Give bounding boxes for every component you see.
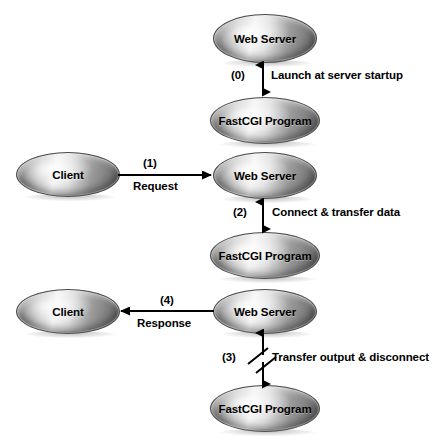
node-label: FastCGI Program bbox=[218, 403, 311, 415]
node-label: Client bbox=[52, 306, 83, 318]
node-client-1: Client bbox=[16, 152, 120, 197]
arrow-text-label-4: Response bbox=[137, 317, 191, 329]
node-web-server-2: Web Server bbox=[213, 152, 317, 199]
node-label: Web Server bbox=[234, 306, 296, 318]
node-web-server-3: Web Server bbox=[213, 289, 317, 334]
arrow-text-label-0: Launch at server startup bbox=[271, 69, 403, 81]
node-web-server-1: Web Server bbox=[213, 14, 317, 63]
arrow-text-label-1: Request bbox=[133, 180, 178, 192]
arrow-step-label-4: (4) bbox=[160, 294, 174, 306]
node-client-2: Client bbox=[16, 289, 120, 334]
arrow-step-label-2: (2) bbox=[233, 206, 247, 218]
node-label: Web Server bbox=[234, 170, 296, 182]
arrow-step-label-0: (0) bbox=[231, 69, 245, 81]
node-label: Web Server bbox=[234, 33, 296, 45]
node-label: Client bbox=[52, 169, 83, 181]
node-label: FastCGI Program bbox=[218, 115, 311, 127]
arrow-step-label-1: (1) bbox=[143, 157, 157, 169]
arrow-step-label-3: (3) bbox=[222, 351, 236, 363]
arrow-text-label-3: Transfer output & disconnect bbox=[272, 351, 429, 363]
node-fastcgi-program-1: FastCGI Program bbox=[210, 97, 320, 144]
arrow-text-label-2: Connect & transfer data bbox=[272, 206, 400, 218]
node-fastcgi-program-3: FastCGI Program bbox=[210, 385, 320, 432]
fastcgi-flow-diagram: Web Server FastCGI Program Client Web Se… bbox=[0, 0, 437, 438]
arrow-layer bbox=[0, 0, 437, 438]
disconnect-slash-upper bbox=[248, 348, 268, 364]
node-fastcgi-program-2: FastCGI Program bbox=[210, 232, 320, 279]
node-label: FastCGI Program bbox=[218, 250, 311, 262]
